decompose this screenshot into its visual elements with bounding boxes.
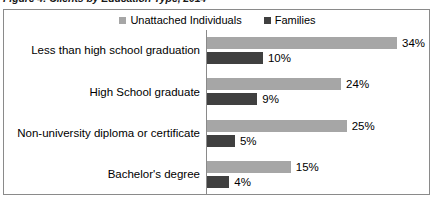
bar-value-families: 4%	[234, 176, 251, 188]
bar-group-bachelors-degree: Bachelor's degree 15% 4%	[4, 154, 431, 195]
bar-value-families: 10%	[268, 52, 291, 64]
figure-title-text: Figure 4: Clients by Education Type, 201…	[3, 0, 206, 4]
figure-title-cropped: Figure 4: Clients by Education Type, 201…	[0, 0, 434, 9]
chart-page: Figure 4: Clients by Education Type, 201…	[0, 0, 434, 199]
bar-value-unattached-individuals: 15%	[296, 161, 319, 173]
bar-families[interactable]	[207, 52, 263, 64]
category-label: Non-university diploma or certificate	[4, 127, 204, 140]
bar-unattached-individuals[interactable]	[207, 120, 347, 132]
bar-value-families: 5%	[240, 135, 257, 147]
chart-frame: Unattached Individuals Families Less tha…	[3, 9, 430, 195]
bar-rows: Less than high school graduation 34% 10%	[4, 30, 431, 195]
bar-unattached-individuals[interactable]	[207, 161, 291, 173]
bar-line-families: 5%	[207, 135, 431, 147]
legend-item-families[interactable]: Families	[264, 15, 316, 26]
bar-line-families: 4%	[207, 176, 431, 188]
bar-pair: 34% 10%	[204, 30, 431, 71]
bar-value-families: 9%	[262, 93, 279, 105]
plot-area: Less than high school graduation 34% 10%	[4, 30, 431, 195]
bar-families[interactable]	[207, 93, 257, 105]
bar-unattached-individuals[interactable]	[207, 78, 341, 90]
bar-pair: 24% 9%	[204, 71, 431, 112]
bar-group-high-school-graduate: High School graduate 24% 9%	[4, 71, 431, 112]
bar-families[interactable]	[207, 135, 235, 147]
category-label: Bachelor's degree	[4, 168, 204, 181]
legend-item-unattached-individuals[interactable]: Unattached Individuals	[119, 15, 241, 26]
legend-label-unattached-individuals: Unattached Individuals	[130, 15, 241, 26]
bar-line-families: 10%	[207, 52, 431, 64]
bar-unattached-individuals[interactable]	[207, 37, 397, 49]
legend-label-families: Families	[275, 15, 316, 26]
bar-line-families: 9%	[207, 93, 431, 105]
bar-value-unattached-individuals: 34%	[402, 37, 425, 49]
bar-line-unattached-individuals: 24%	[207, 78, 431, 90]
bar-line-unattached-individuals: 34%	[207, 37, 431, 49]
legend-swatch-icon-unattached-individuals	[119, 17, 126, 24]
bar-group-less-than-high-school: Less than high school graduation 34% 10%	[4, 30, 431, 71]
bar-pair: 15% 4%	[204, 154, 431, 195]
category-label: Less than high school graduation	[4, 44, 204, 57]
bar-group-non-university-diploma: Non-university diploma or certificate 25…	[4, 113, 431, 154]
bar-line-unattached-individuals: 15%	[207, 161, 431, 173]
bar-value-unattached-individuals: 25%	[352, 120, 375, 132]
category-label: High School graduate	[4, 86, 204, 99]
bar-line-unattached-individuals: 25%	[207, 120, 431, 132]
bar-families[interactable]	[207, 176, 229, 188]
bar-value-unattached-individuals: 24%	[346, 78, 369, 90]
chart-legend: Unattached Individuals Families	[4, 12, 431, 28]
legend-swatch-icon-families	[264, 17, 271, 24]
bar-pair: 25% 5%	[204, 113, 431, 154]
